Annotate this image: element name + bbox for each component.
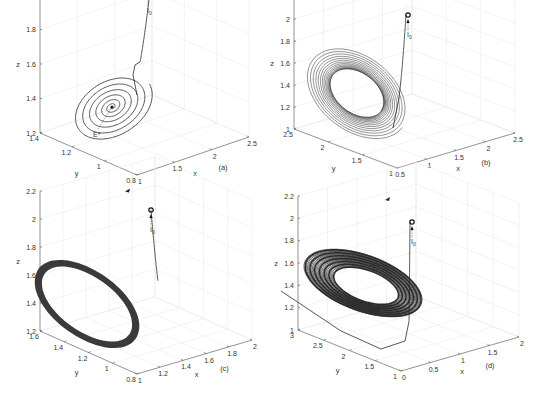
grid-line [40, 26, 152, 64]
x-tick-label: 1.4 [181, 363, 191, 370]
z-tick-label: 2.2 [284, 193, 294, 200]
z-tick-label: 2 [286, 16, 290, 23]
x-tick-label: 1.2 [158, 370, 168, 377]
initial-point-subscript: 0 [149, 10, 152, 16]
x-axis-label: x [195, 370, 199, 379]
z-tick-label: 1.2 [26, 328, 36, 335]
grid-line [350, 317, 468, 351]
y-tick-label: 1.5 [352, 157, 362, 164]
x-axis-label: x [193, 169, 197, 178]
direction-arrow-icon [125, 189, 130, 193]
initial-point-subscript: 0 [409, 34, 412, 40]
z-axis-label: z [16, 257, 20, 266]
initial-point-subscript: 0 [152, 229, 155, 235]
x-axis [137, 340, 252, 374]
grid-line [152, 95, 249, 137]
z-tick-label: 1.4 [284, 282, 294, 289]
trajectory-spiral [76, 78, 153, 139]
grid-line [89, 319, 204, 353]
equilibrium-point [111, 106, 114, 109]
x-tick-label: 2 [213, 153, 217, 160]
x-tick-label: 1.5 [172, 165, 182, 172]
x-tick-label: 2.5 [247, 140, 257, 147]
y-axis-label: y [336, 366, 340, 375]
grid-line [412, 6, 515, 45]
grid-line [152, 61, 249, 103]
y-tick-label: 1.2 [61, 149, 71, 156]
grid-line [152, 0, 249, 34]
z-tick-label: 2 [32, 216, 36, 223]
z-tick-label: 1.4 [26, 95, 36, 102]
x-tick-label: 2.5 [513, 136, 523, 143]
panel-label: (d) [485, 361, 495, 370]
equilibrium-label: E* [93, 131, 101, 138]
grid-line [40, 241, 155, 275]
x-tick-label: 1 [138, 377, 142, 384]
initial-point-label: I0 [147, 7, 152, 16]
z-tick-label: 1.8 [280, 38, 290, 45]
z-tick-label: 1.4 [26, 300, 36, 307]
grid-line [375, 327, 493, 361]
figure: 11.522.50.811.21.41.21.41.61.82xyz(a)E*I… [0, 0, 544, 400]
x-tick-label: 0.5 [395, 171, 405, 178]
z-tick-label: 1.6 [280, 60, 290, 67]
z-tick-label: 1.6 [26, 272, 36, 279]
equilibrium-pointer [98, 107, 112, 129]
x-tick-label: 2 [253, 343, 257, 350]
z-tick-label: 1.8 [26, 26, 36, 33]
y-tick-label: 1 [393, 373, 397, 380]
y-tick-label: 1.4 [53, 344, 63, 351]
z-tick-label: 2.2 [26, 188, 36, 195]
x-tick-label: 2 [487, 145, 491, 152]
y-tick-label: 0.8 [126, 177, 136, 184]
y-tick-label: 1 [389, 170, 393, 177]
x-tick-label: 0.5 [429, 366, 439, 373]
z-tick-label: 2 [290, 215, 294, 222]
panel-label: (b) [481, 158, 491, 167]
x-tick-label: 2 [520, 340, 524, 347]
initial-point-marker [406, 13, 410, 17]
y-axis-label: y [75, 368, 79, 377]
y-tick-label: 1 [105, 365, 109, 372]
initial-point-marker [410, 220, 414, 224]
grid-line [412, 0, 515, 1]
grid-line [152, 26, 249, 68]
x-tick-label: 0 [402, 374, 406, 381]
grid-line [105, 123, 217, 161]
initial-point-arrow-icon [410, 226, 413, 230]
grid-line [40, 0, 152, 30]
x-tick-label: 1.5 [488, 349, 498, 356]
z-tick-label: 1 [286, 126, 290, 133]
z-tick-label: 1 [290, 327, 294, 334]
grid [40, 0, 249, 175]
y-tick-label: 1.2 [78, 355, 88, 362]
x-axis-label: x [456, 164, 460, 173]
y-tick-label: 0.8 [126, 376, 136, 383]
grid-line [412, 50, 515, 89]
z-axis-label: z [270, 59, 274, 68]
y-tick-label: 2 [320, 144, 324, 151]
grid-line [412, 0, 515, 23]
grid-line [412, 28, 515, 67]
panel-a: 11.522.50.811.21.41.21.41.61.82xyz(a)E*I… [16, 0, 257, 185]
grid-line [77, 120, 174, 162]
y-tick-label: 1 [97, 163, 101, 170]
initial-point-label: I0 [407, 31, 412, 40]
y-axis-label: y [75, 169, 79, 178]
y-axis-label: y [332, 164, 336, 173]
x-axis-label: x [460, 367, 464, 376]
grid-line [412, 72, 515, 111]
y-tick-label: 2 [342, 353, 346, 360]
panel-label: (a) [218, 163, 228, 172]
panel-c: 11.21.41.61.820.811.21.41.61.21.41.61.82… [16, 157, 257, 384]
y-axis [40, 133, 137, 175]
grid-line [412, 94, 515, 133]
panel-b: 0.511.522.511.522.511.21.41.61.822.2xyz(… [270, 0, 523, 178]
z-tick-label: 1.4 [280, 82, 290, 89]
z-axis-label: z [16, 60, 20, 69]
x-tick-label: 1 [138, 178, 142, 185]
grid-line [115, 108, 212, 150]
y-axis [294, 129, 397, 168]
z-tick-label: 1.6 [26, 61, 36, 68]
z-tick-label: 1.2 [280, 104, 290, 111]
